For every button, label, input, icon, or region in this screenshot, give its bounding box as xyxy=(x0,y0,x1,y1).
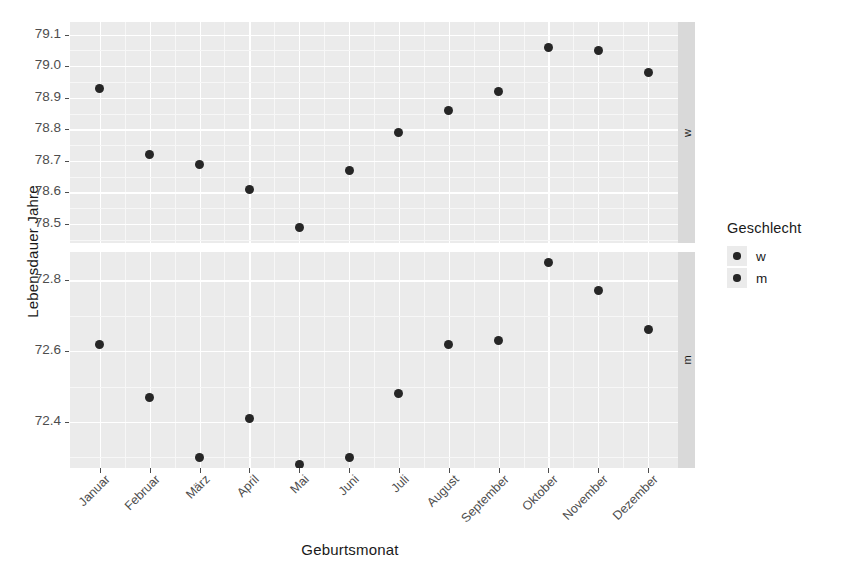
gridline-vertical-minor xyxy=(573,252,574,468)
y-axis-tick-mark xyxy=(65,422,69,423)
data-point xyxy=(594,286,603,295)
gridline-vertical-minor xyxy=(474,22,475,243)
legend-item-w[interactable]: w xyxy=(727,245,802,267)
gridline-horizontal-minor xyxy=(70,82,678,83)
y-axis-tick-label: 78.8 xyxy=(35,120,61,135)
y-axis-tick-label: 79.0 xyxy=(35,57,61,72)
gridline-horizontal-minor xyxy=(70,240,678,241)
gridline-vertical-minor xyxy=(175,252,176,468)
y-axis-tick-mark xyxy=(65,98,69,99)
gridline-vertical xyxy=(200,22,201,243)
gridline-horizontal-minor xyxy=(70,457,678,458)
data-point xyxy=(195,453,204,462)
facet-panel-m xyxy=(70,252,678,468)
x-axis-tick-mark xyxy=(150,468,151,473)
data-point xyxy=(295,460,304,468)
gridline-vertical xyxy=(349,22,350,243)
data-point xyxy=(95,340,104,349)
gridline-vertical xyxy=(648,22,649,243)
y-axis-tick-mark xyxy=(65,129,69,130)
y-axis-tick-label: 78.6 xyxy=(35,183,61,198)
gridline-vertical xyxy=(150,22,151,243)
gridline-vertical-minor xyxy=(125,252,126,468)
facet-strip-m: m xyxy=(678,252,695,468)
legend-label-w: w xyxy=(756,249,766,264)
gridline-horizontal-minor xyxy=(70,387,678,388)
y-axis-tick-mark xyxy=(65,161,69,162)
gridline-vertical-minor xyxy=(623,252,624,468)
gridline-vertical xyxy=(299,252,300,468)
data-point xyxy=(394,128,403,137)
y-axis-tick-label: 72.8 xyxy=(35,271,61,286)
x-axis-tick-mark xyxy=(100,468,101,473)
x-axis-tick-mark xyxy=(499,468,500,473)
gridline-vertical xyxy=(548,252,549,468)
data-point xyxy=(644,325,653,334)
y-axis-tick-label: 78.7 xyxy=(35,152,61,167)
x-axis-title: Geburtsmonat xyxy=(0,541,700,558)
data-point xyxy=(95,84,104,93)
gridline-horizontal xyxy=(70,98,678,99)
y-axis-tick-label: 78.9 xyxy=(35,89,61,104)
gridline-horizontal xyxy=(70,192,678,193)
facet-strip-label-m: m xyxy=(681,355,693,364)
data-point xyxy=(295,223,304,232)
legend-item-m[interactable]: m xyxy=(727,267,802,289)
gridline-horizontal xyxy=(70,351,678,352)
gridline-vertical-minor xyxy=(274,252,275,468)
gridline-horizontal xyxy=(70,161,678,162)
facet-panel-w xyxy=(70,22,678,243)
chart-canvas: Lebensdauer Jahre w m 79.179.078.978.878… xyxy=(0,0,852,577)
gridline-horizontal xyxy=(70,66,678,67)
gridline-vertical xyxy=(499,252,500,468)
y-axis-tick-mark xyxy=(65,192,69,193)
legend-key-icon-m xyxy=(727,268,747,288)
gridline-horizontal xyxy=(70,422,678,423)
y-axis-tick-label: 72.6 xyxy=(35,342,61,357)
gridline-vertical-minor xyxy=(374,252,375,468)
data-point xyxy=(145,393,154,402)
gridline-vertical xyxy=(299,22,300,243)
data-point xyxy=(644,68,653,77)
gridline-vertical xyxy=(399,252,400,468)
gridline-vertical xyxy=(598,22,599,243)
data-point xyxy=(444,340,453,349)
legend-label-m: m xyxy=(756,271,767,286)
legend-key-icon-w xyxy=(727,246,747,266)
y-axis-tick-label: 72.4 xyxy=(35,413,61,428)
gridline-vertical-minor xyxy=(374,22,375,243)
y-axis-tick-mark xyxy=(65,224,69,225)
gridline-horizontal-minor xyxy=(70,50,678,51)
y-axis-tick-mark xyxy=(65,351,69,352)
data-point xyxy=(594,46,603,55)
gridline-vertical-minor xyxy=(324,22,325,243)
gridline-vertical-minor xyxy=(274,22,275,243)
gridline-vertical xyxy=(200,252,201,468)
legend-title: Geschlecht xyxy=(727,220,802,236)
gridline-vertical xyxy=(499,22,500,243)
gridline-vertical-minor xyxy=(424,22,425,243)
gridline-vertical xyxy=(100,22,101,243)
gridline-vertical xyxy=(449,22,450,243)
gridline-vertical xyxy=(648,252,649,468)
gridline-vertical xyxy=(249,22,250,243)
x-axis-tick-mark xyxy=(200,468,201,473)
facet-strip-w: w xyxy=(678,22,695,243)
gridline-horizontal-minor xyxy=(70,208,678,209)
data-point xyxy=(494,87,503,96)
gridline-vertical-minor xyxy=(524,22,525,243)
y-axis-tick-mark xyxy=(65,280,69,281)
data-point xyxy=(544,43,553,52)
gridline-vertical-minor xyxy=(573,22,574,243)
gridline-horizontal xyxy=(70,224,678,225)
gridline-vertical-minor xyxy=(623,22,624,243)
y-axis-title: Lebensdauer Jahre xyxy=(24,142,41,362)
gridline-vertical-minor xyxy=(175,22,176,243)
data-point xyxy=(494,336,503,345)
gridline-horizontal xyxy=(70,129,678,130)
data-point xyxy=(245,185,254,194)
gridline-vertical xyxy=(150,252,151,468)
gridline-vertical-minor xyxy=(324,252,325,468)
gridline-vertical xyxy=(100,252,101,468)
gridline-horizontal-minor xyxy=(70,145,678,146)
